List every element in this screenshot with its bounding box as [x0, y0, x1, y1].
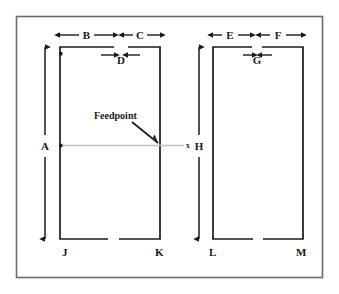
dimension-E-label: E — [226, 29, 233, 41]
dimension-C: C — [124, 29, 160, 41]
dimension-H: H — [195, 47, 204, 239]
diagram-canvas: A H B C E F — [0, 0, 339, 294]
dimension-B: B — [60, 29, 113, 41]
dimension-F: F — [261, 29, 301, 41]
dimension-G: G — [243, 54, 272, 66]
right-element — [212, 47, 304, 239]
feedpoint-callout: Feedpoint — [94, 110, 158, 143]
dimension-H-label: H — [195, 140, 204, 152]
feedpoint-leader-arrow — [132, 122, 158, 143]
dimension-E: E — [213, 29, 250, 41]
node-label-J: J — [62, 246, 68, 258]
dimension-C-label: C — [136, 29, 144, 41]
feedpoint-label: Feedpoint — [94, 110, 137, 121]
left-element — [59, 47, 161, 239]
dimension-D: D — [101, 54, 140, 66]
dimension-A: A — [41, 47, 49, 239]
dimension-G-label: G — [253, 54, 262, 66]
dimension-B-label: B — [83, 29, 91, 41]
dimension-F-label: F — [275, 29, 282, 41]
node-label-M: M — [296, 246, 307, 258]
node-label-K: K — [155, 246, 164, 258]
dimension-A-label: A — [41, 140, 49, 152]
tick-feedline-end-label: x — [186, 141, 190, 150]
tick-left-feed-marker — [59, 144, 62, 147]
dimension-D-label: D — [117, 54, 125, 66]
antenna-dimension-diagram: A H B C E F — [0, 0, 339, 294]
node-label-L: L — [209, 246, 216, 258]
tick-left-top-marker — [59, 52, 62, 55]
